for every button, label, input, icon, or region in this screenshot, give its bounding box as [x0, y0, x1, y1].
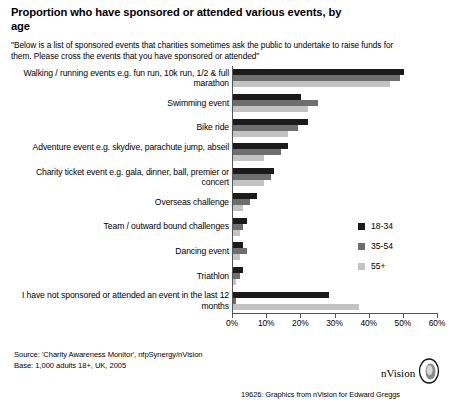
axis-tick-label: 40%	[354, 318, 384, 328]
bar	[233, 106, 308, 112]
legend-swatch	[358, 243, 365, 250]
bar	[233, 230, 240, 236]
bar	[233, 81, 390, 87]
category-label: I have not sponsored or attended an even…	[7, 290, 229, 311]
base-line: Base: 1,000 adults 18+, UK, 2005	[14, 361, 203, 372]
legend-item: 55+	[358, 261, 393, 271]
bar-group	[233, 193, 438, 211]
chart-subtitle: "Below is a list of sponsored events tha…	[11, 40, 396, 62]
category-label: Team / outward bound challenges	[7, 221, 229, 232]
credit-line: 19626: Graphics from nVision for Edward …	[241, 390, 400, 399]
category-label: Dancing event	[7, 246, 229, 257]
category-label: Adventure event e.g. skydive, parachute …	[7, 142, 229, 153]
category-label: Triathlon	[7, 271, 229, 282]
bar	[233, 254, 240, 260]
bar-group	[233, 119, 438, 137]
category-label: Overseas challenge	[7, 197, 229, 208]
category-label: Bike ride	[7, 122, 229, 133]
logo-wordmark: nVision	[381, 367, 415, 379]
axis-tick-label: 30%	[320, 318, 350, 328]
axis-tick-label: 0%	[217, 318, 247, 328]
bar	[233, 205, 243, 211]
axis-tick-label: 10%	[251, 318, 281, 328]
bar	[233, 155, 264, 161]
legend-label: 18-34	[371, 221, 393, 231]
bar-group	[233, 267, 438, 285]
plot-area	[232, 66, 438, 314]
bar-group	[233, 168, 438, 186]
bar	[233, 279, 236, 285]
category-label: Walking / running events e.g. fun run, 1…	[7, 68, 229, 89]
legend-swatch	[358, 263, 365, 270]
bar	[233, 180, 264, 186]
chart-title: Proportion who have sponsored or attende…	[11, 6, 351, 33]
source-line: Source: 'Charity Awareness Monitor', nfp…	[14, 350, 203, 361]
legend-item: 35-54	[358, 241, 393, 251]
bar-group	[233, 218, 438, 236]
title-block: Proportion who have sponsored or attende…	[11, 6, 351, 62]
bar-group	[233, 242, 438, 260]
source-block: Source: 'Charity Awareness Monitor', nfp…	[14, 350, 203, 371]
category-label: Swimming event	[7, 98, 229, 109]
bar-group	[233, 292, 438, 310]
legend: 18-3435-5455+	[358, 221, 393, 281]
legend-item: 18-34	[358, 221, 393, 231]
bar-group	[233, 69, 438, 87]
bar-group	[233, 143, 438, 161]
bar	[233, 131, 288, 137]
legend-swatch	[358, 223, 365, 230]
axis-tick-label: 50%	[388, 318, 418, 328]
logo-mark-icon	[416, 358, 442, 388]
legend-label: 35-54	[371, 241, 393, 251]
axis-tick-label: 60%	[422, 318, 452, 328]
legend-label: 55+	[371, 261, 386, 271]
category-label: Charity ticket event e.g. gala, dinner, …	[7, 167, 229, 188]
nvision-logo: nVision	[381, 358, 442, 388]
bar	[233, 292, 329, 298]
axis-tick-label: 20%	[285, 318, 315, 328]
bar-group	[233, 94, 438, 112]
bar	[233, 304, 359, 310]
